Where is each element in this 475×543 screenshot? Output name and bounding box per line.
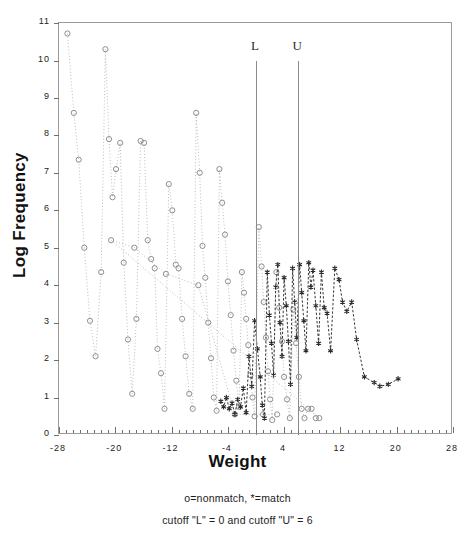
x-axis-tick-minor [200,430,201,434]
data-point-match [337,277,342,282]
figure-container: Log Frequency Weight o=nonmatch, *=match… [0,0,475,543]
y-axis-tick [54,98,59,99]
y-axis-tick [54,398,59,399]
y-axis-tick [54,360,59,361]
y-axis-tick-label: 6 [16,203,50,213]
data-point-match [299,290,304,295]
data-point-match [309,284,314,289]
x-axis-tick-major [340,427,341,433]
x-axis-tick-minor [263,430,264,434]
y-axis-tick [54,248,59,249]
x-axis-tick-minor [158,430,159,434]
data-point-match [219,399,224,404]
x-axis-tick-minor [179,430,180,434]
x-axis-tick-minor [439,430,440,434]
x-axis-label: Weight [0,452,475,472]
data-point-nonmatch [158,371,163,376]
x-axis-tick-minor [404,430,405,434]
x-axis-tick-minor [214,430,215,434]
y-axis-tick-label: 4 [16,278,50,288]
x-axis-tick-minor [122,430,123,434]
x-axis-tick-label: 28 [432,443,472,453]
x-axis-tick-label: 12 [319,443,359,453]
figure-caption: o=nonmatch, *=match cutoff "L" = 0 and c… [0,487,475,531]
data-point-match [396,376,401,381]
x-axis-tick-label: -12 [151,443,191,453]
data-point-match [333,266,338,271]
data-point-match [325,311,330,316]
x-axis-tick-minor [151,430,152,434]
x-axis-tick-minor [326,430,327,434]
data-point-match [311,268,316,273]
data-point-nonmatch [196,283,201,288]
x-axis-tick-minor [66,430,67,434]
y-axis-tick-label: 11 [16,16,50,26]
x-axis-tick-label: -20 [94,443,134,453]
data-point-nonmatch [187,391,192,396]
cutoff-line-U [298,61,299,436]
x-axis-tick-minor [242,430,243,434]
caption-legend-line: o=nonmatch, *=match [0,487,475,509]
x-axis-tick-minor [270,430,271,434]
x-axis-tick-minor [256,430,257,434]
data-point-nonmatch [109,238,114,243]
data-point-match [354,337,359,342]
x-axis-tick-minor [390,430,391,434]
data-point-match [278,320,283,325]
data-point-match [290,266,295,271]
cutoff-label-U: U [285,38,309,54]
data-point-match [319,269,324,274]
data-point-match [292,299,297,304]
data-point-match [265,269,270,274]
x-axis-tick-major [453,427,454,433]
data-point-nonmatch [180,316,185,321]
data-point-match [267,312,272,317]
x-axis-tick-major [115,427,116,433]
x-axis-tick-major [59,427,60,433]
x-axis-tick-minor [348,430,349,434]
x-axis-tick-label: 4 [263,443,303,453]
data-point-nonmatch [302,416,307,421]
data-point-nonmatch [166,182,171,187]
x-axis-tick-minor [165,430,166,434]
series-line-nonmatch [67,34,319,421]
caption-cutoff-line: cutoff "L" = 0 and cutoff "U" = 6 [0,509,475,531]
x-axis-tick-minor [108,430,109,434]
data-point-match [276,262,281,267]
x-axis-tick-minor [73,430,74,434]
data-point-match [224,395,229,400]
y-axis-tick-label: 1 [16,391,50,401]
x-axis-tick-minor [193,430,194,434]
data-point-match [286,339,291,344]
data-point-nonmatch [71,110,76,115]
data-point-nonmatch [244,316,249,321]
x-axis-tick-minor [235,430,236,434]
x-axis-tick-minor [291,430,292,434]
x-axis-tick-minor [221,430,222,434]
y-axis-tick-label: 0 [16,428,50,438]
y-axis-tick [54,435,59,436]
data-point-match [271,372,276,377]
data-point-match [262,415,267,420]
y-axis-tick [54,135,59,136]
data-point-nonmatch [103,47,108,52]
data-point-match [328,348,333,353]
x-axis-tick-minor [418,430,419,434]
data-point-match [282,275,287,280]
y-axis-tick [54,23,59,24]
x-axis-tick-label: -28 [38,443,78,453]
cutoff-line-L [256,61,257,436]
figure-title [0,0,475,4]
cutoff-label-L: L [243,38,267,54]
data-point-match [362,374,367,379]
x-axis-tick-label: 20 [376,443,416,453]
x-axis-tick-minor [383,430,384,434]
x-axis-tick-major [284,427,285,433]
data-point-nonmatch [228,313,233,318]
series-match [219,260,401,421]
x-axis-tick-minor [80,430,81,434]
x-axis-tick-minor [411,430,412,434]
y-axis-tick [54,210,59,211]
x-axis-tick-minor [432,430,433,434]
x-axis-tick-minor [87,430,88,434]
